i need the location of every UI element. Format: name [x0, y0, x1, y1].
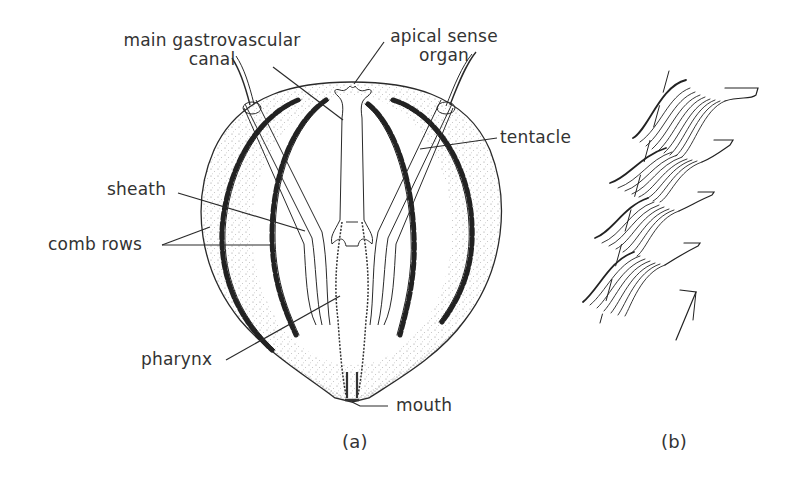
label-main-gastrovascular-canal-line2: canal: [112, 50, 312, 69]
label-pharynx: pharynx: [141, 350, 212, 369]
comb-plate-2: [610, 140, 733, 202]
label-apical-sense-organ: apical sense organ: [384, 27, 504, 65]
comb-plates-detail: [583, 71, 758, 340]
label-mouth: mouth: [396, 396, 452, 415]
comb-plate-4: [583, 243, 700, 340]
caption-panel-b: (b): [661, 432, 687, 451]
label-apical-sense-organ-line2: organ: [384, 46, 504, 65]
label-sheath: sheath: [107, 180, 166, 199]
comb-plate-1: [633, 80, 758, 157]
caption-panel-a: (a): [342, 432, 368, 451]
label-apical-sense-organ-line1: apical sense: [384, 27, 504, 46]
label-main-gastrovascular-canal-line1: main gastrovascular: [112, 31, 312, 50]
leader-apical-sense-organ: [354, 42, 384, 84]
leader-mouth: [352, 402, 388, 406]
label-main-gastrovascular-canal: main gastrovascular canal: [112, 31, 312, 69]
label-tentacle: tentacle: [500, 128, 571, 147]
label-comb-rows: comb rows: [48, 235, 142, 254]
